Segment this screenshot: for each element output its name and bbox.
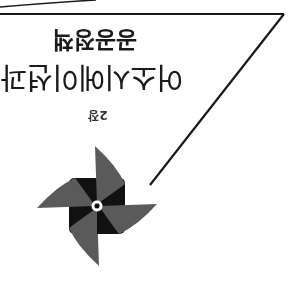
chapter-label: 2장 xyxy=(76,108,120,125)
pinwheel-icon xyxy=(36,145,158,267)
title-line-1: 어소시에이션과 xyxy=(0,59,188,101)
chapter-title-page: 2장 어소시에이션과 공공정책 xyxy=(0,0,296,293)
top-curve-line xyxy=(0,0,96,7)
title-line-2: 공공정책 xyxy=(40,25,150,59)
pinwheel-hub xyxy=(94,203,99,208)
